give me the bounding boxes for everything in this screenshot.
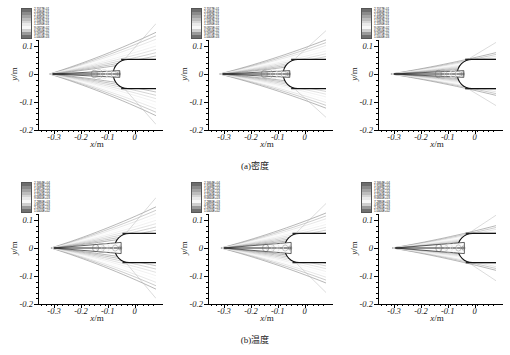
- y-minor-tick: [36, 52, 38, 53]
- x-minor-tick: [148, 304, 149, 306]
- y-axis-label: y/m: [10, 67, 19, 81]
- y-tick: [34, 74, 38, 75]
- y-minor-tick: [206, 80, 208, 81]
- y-minor-tick: [36, 108, 38, 109]
- y-axis-var: y: [9, 251, 19, 255]
- x-minor-tick: [424, 130, 425, 132]
- x-minor-tick: [456, 304, 457, 306]
- y-minor-tick: [206, 259, 208, 260]
- x-minor-tick: [100, 130, 101, 132]
- x-minor-tick: [248, 304, 249, 306]
- legend-color-swatch: [22, 209, 31, 212]
- y-minor-tick: [376, 96, 378, 97]
- expansion-fan-line: [469, 89, 496, 105]
- x-minor-tick: [254, 304, 255, 306]
- y-axis-var: y: [349, 77, 359, 81]
- legend-colorbar: [21, 182, 32, 213]
- y-minor-tick: [206, 85, 208, 86]
- y-minor-tick: [206, 108, 208, 109]
- y-minor-tick: [36, 85, 38, 86]
- y-minor-tick: [376, 80, 378, 81]
- y-tick-label: 0.1: [192, 216, 203, 225]
- x-minor-tick: [243, 130, 244, 132]
- y-minor-tick: [36, 68, 38, 69]
- y-minor-tick: [206, 57, 208, 58]
- x-minor-tick: [440, 304, 441, 306]
- y-tick: [204, 46, 208, 47]
- x-minor-tick: [483, 130, 484, 132]
- y-minor-tick: [376, 282, 378, 283]
- x-minor-tick: [110, 304, 111, 306]
- y-tick: [34, 102, 38, 103]
- x-minor-tick: [238, 130, 239, 132]
- y-minor-tick: [36, 287, 38, 288]
- y-minor-tick: [206, 214, 208, 215]
- y-tick: [204, 248, 208, 249]
- expansion-fan-line: [295, 89, 326, 117]
- x-minor-tick: [46, 130, 47, 132]
- y-minor-tick: [36, 119, 38, 120]
- x-tick-label: 0: [302, 133, 306, 142]
- y-tick-label: 0.1: [362, 216, 373, 225]
- x-minor-tick: [323, 304, 324, 306]
- x-tick-label: -0.3: [47, 133, 60, 142]
- contour-legend: 2.1664E+041.9248E+041.6872E+041.4476E+04…: [20, 181, 51, 214]
- y-minor-tick: [376, 68, 378, 69]
- x-minor-tick: [243, 304, 244, 306]
- y-tick: [34, 130, 38, 131]
- y-tick: [204, 220, 208, 221]
- x-tick-label: -0.2: [414, 307, 427, 316]
- legend-level-label: 1.0000E-03: [204, 36, 219, 39]
- contour-field: [38, 192, 156, 304]
- x-minor-tick: [227, 130, 228, 132]
- y-tick: [204, 276, 208, 277]
- y-minor-tick: [376, 237, 378, 238]
- y-tick: [34, 304, 38, 305]
- legend-level-label: 1.0000E+02: [204, 210, 220, 213]
- x-minor-tick: [429, 304, 430, 306]
- x-minor-tick: [318, 304, 319, 306]
- x-minor-tick: [51, 130, 52, 132]
- y-minor-tick: [206, 63, 208, 64]
- x-minor-tick: [116, 130, 117, 132]
- x-minor-tick: [62, 304, 63, 306]
- legend-labels: 2.7077E-012.4080E-012.1082E-011.8085E-01…: [374, 8, 389, 39]
- y-tick: [374, 248, 378, 249]
- legend-colorbar: [21, 8, 32, 39]
- y-minor-tick: [206, 270, 208, 271]
- y-minor-tick: [376, 52, 378, 53]
- plot-area: 0.20.10-0.1-0.2-0.3-0.2-0.10y/mx/m: [378, 18, 496, 130]
- x-tick-label: -0.2: [74, 133, 87, 142]
- y-minor-tick: [376, 40, 378, 41]
- y-tick-label: 0.1: [192, 42, 203, 51]
- legend-color-swatch: [192, 35, 201, 38]
- x-minor-tick: [62, 130, 63, 132]
- x-minor-tick: [89, 130, 90, 132]
- x-minor-tick: [121, 130, 122, 132]
- x-minor-tick: [153, 304, 154, 306]
- x-minor-tick: [429, 130, 430, 132]
- x-minor-tick: [264, 130, 265, 132]
- panel-b2: 0.20.10-0.1-0.2-0.3-0.2-0.10y/mx/m2.1664…: [170, 178, 340, 348]
- y-axis-label: y/m: [10, 241, 19, 255]
- y-axis-label: y/m: [180, 241, 189, 255]
- legend-labels: 2.7077E-012.4080E-012.1082E-011.8085E-01…: [204, 8, 219, 39]
- x-minor-tick: [461, 130, 462, 132]
- y-minor-tick: [376, 270, 378, 271]
- x-tick-label: 0: [132, 307, 136, 316]
- x-minor-tick: [291, 130, 292, 132]
- y-tick-label: -0.1: [360, 272, 373, 281]
- x-tick-label: 0: [132, 133, 136, 142]
- y-tick-label: 0.1: [362, 42, 373, 51]
- x-minor-tick: [461, 304, 462, 306]
- legend-level-label: 1.0000E+02: [34, 210, 50, 213]
- x-minor-tick: [121, 304, 122, 306]
- x-minor-tick: [402, 130, 403, 132]
- x-minor-tick: [232, 304, 233, 306]
- x-minor-tick: [472, 130, 473, 132]
- y-minor-tick: [36, 259, 38, 260]
- x-minor-tick: [105, 130, 106, 132]
- y-axis-unit: /m: [349, 241, 359, 251]
- y-minor-tick: [376, 85, 378, 86]
- y-minor-tick: [206, 265, 208, 266]
